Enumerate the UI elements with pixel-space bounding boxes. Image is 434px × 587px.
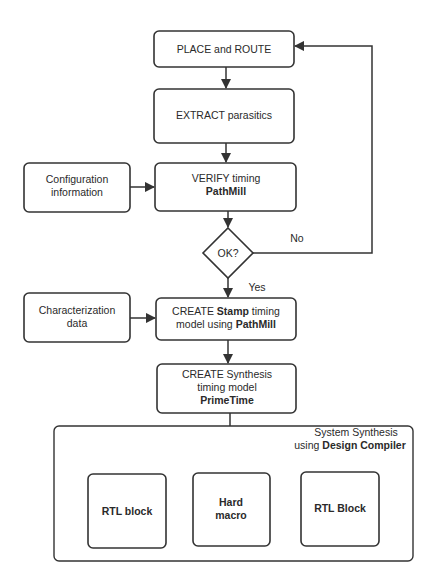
system-synthesis-label-line2: using Design Compiler [294,439,405,451]
characterization-label-line1: Characterization [39,304,116,316]
stamp-line1-post: timing [249,305,280,317]
config-label-line2: information [51,186,103,198]
edge-label-no: No [290,232,304,244]
extract-label: EXTRACT parasitics [176,109,272,121]
node-hard-macro: Hard macro [193,473,270,546]
place-route-label: PLACE and ROUTE [177,43,272,55]
hard-macro-label-line1: Hard [219,496,243,508]
hard-macro-label-line2: macro [215,509,247,521]
edge-label-yes: Yes [248,281,265,293]
stamp-label-line2: model using PathMill [176,318,276,330]
rtl-block-2-label: RTL Block [314,502,366,514]
node-configuration-information: Configuration information [24,163,130,212]
stamp-line2-pre: model using [176,318,236,330]
synthesis-label-line2: timing model [197,381,257,393]
decision-label: OK? [217,247,238,259]
stamp-line1-pre: CREATE [172,305,217,317]
node-extract-parasitics: EXTRACT parasitics [154,89,294,143]
stamp-label-line1: CREATE Stamp timing [172,305,280,317]
stamp-line1-bold: Stamp [217,305,249,317]
rtl-block-1-label: RTL block [102,505,153,517]
system-synthesis-line2-pre: using [294,439,322,451]
node-verify-timing: VERIFY timing PathMill [155,163,296,211]
synthesis-label-tool: PrimeTime [200,394,254,406]
system-synthesis-label-line1: System Synthesis [314,426,397,438]
config-label-line1: Configuration [46,173,109,185]
system-synthesis-line2-bold: Design Compiler [322,439,405,451]
node-rtl-block-2: RTL Block [301,472,379,546]
characterization-label-line2: data [67,317,88,329]
arrow-decision-no-to-place [253,46,372,253]
flowchart-canvas: PLACE and ROUTE EXTRACT parasitics Confi… [0,0,434,587]
node-rtl-block-1: RTL block [88,474,166,548]
node-place-and-route: PLACE and ROUTE [154,31,294,67]
node-create-synthesis-model: CREATE Synthesis timing model PrimeTime [157,364,296,413]
synthesis-label-line1: CREATE Synthesis [182,368,272,380]
stamp-line2-bold: PathMill [236,318,276,330]
node-characterization-data: Characterization data [24,293,130,342]
node-decision-ok: OK? [203,228,253,278]
node-create-stamp-model: CREATE Stamp timing model using PathMill [156,298,296,340]
verify-label-tool: PathMill [206,185,246,197]
verify-label-line1: VERIFY timing [192,172,261,184]
